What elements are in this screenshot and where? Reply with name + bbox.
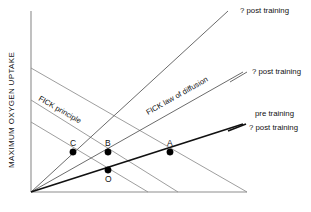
data-point-a xyxy=(167,149,173,155)
data-point-label-c: C xyxy=(70,138,76,148)
fick-diffusion-lines xyxy=(31,11,243,192)
fick-principle-line-lower xyxy=(31,122,148,192)
curve-label-fick-principle: FICK principle xyxy=(37,94,83,126)
data-point-b xyxy=(105,149,111,155)
label-pre-training: pre training xyxy=(255,110,294,118)
data-point-c xyxy=(70,149,76,155)
label-post-training-mid: ? post training xyxy=(252,68,301,76)
diffusion-ray-steep xyxy=(31,11,228,192)
curve-label-fick-law-of-diffusion: FICK law of diffusion xyxy=(145,75,210,117)
diffusion-ray-medium xyxy=(31,72,243,192)
label-post-training-top: ? post training xyxy=(240,7,289,15)
diffusion-ray-shallow xyxy=(31,124,243,192)
data-point-label-o: O xyxy=(105,174,112,184)
data-point-label-a: A xyxy=(167,138,173,148)
data-point-label-b: B xyxy=(105,138,111,148)
oxygen-uptake-diagram: C B A O MAXIMUM OXYGEN UPTAKE FICK princ… xyxy=(0,0,311,212)
y-axis-title: MAXIMUM OXYGEN UPTAKE xyxy=(7,52,16,168)
data-point-o xyxy=(105,167,111,173)
leader-post-training-mid xyxy=(230,72,247,82)
label-leaders xyxy=(228,72,247,131)
axes-group xyxy=(31,11,247,192)
label-post-training-low: ? post training xyxy=(249,124,298,132)
figure-container: C B A O MAXIMUM OXYGEN UPTAKE FICK princ… xyxy=(0,0,311,212)
